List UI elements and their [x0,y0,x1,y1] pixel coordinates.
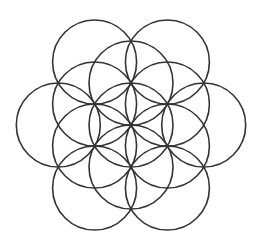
flower-of-life-diagram [0,0,263,252]
